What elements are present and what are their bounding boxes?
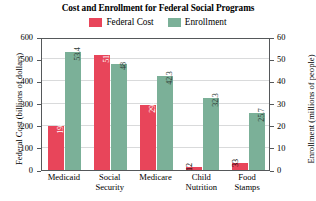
y-axis-right-tick-label: 20	[277, 122, 285, 131]
bar-enrollment[interactable]: 32.3	[203, 98, 219, 170]
bar-value-label: 294	[148, 101, 157, 113]
legend-swatch-federal-cost	[89, 18, 102, 27]
legend-item-federal-cost: Federal Cost	[89, 17, 153, 27]
y-axis-right-tick-label: 40	[277, 77, 285, 86]
bar-group: 51948	[94, 39, 127, 170]
x-axis-label: Food Stamps	[224, 173, 270, 192]
tick-mark-right	[270, 38, 274, 39]
legend-swatch-enrollment	[168, 18, 181, 27]
bar-group: 1232.3	[186, 39, 219, 170]
y-axis-right-tick-label: 60	[277, 33, 285, 42]
legend-item-enrollment: Enrollment	[168, 17, 227, 27]
tick-mark-right	[270, 60, 274, 61]
bar-value-label: 32.3	[211, 94, 220, 108]
bar-value-label: 33	[231, 159, 240, 167]
y-axis-right-title: Enrollment (millions of people)	[306, 34, 316, 184]
tick-mark-right	[270, 148, 274, 149]
y-axis-left-tick-label: 200	[20, 122, 33, 131]
bar-federal-cost[interactable]: 294	[140, 105, 156, 170]
y-axis-left-tick-label: 300	[20, 100, 33, 109]
bar-group: 19853.4	[48, 39, 81, 170]
y-axis-left-tick-label: 600	[20, 33, 33, 42]
x-axis-label: Social Security	[87, 173, 133, 192]
tick-mark-right	[270, 82, 274, 83]
bar-value-label: 198	[56, 122, 65, 134]
bar-group: 3325.7	[232, 39, 265, 170]
bar-federal-cost[interactable]: 12	[186, 167, 202, 170]
bar-value-label: 12	[185, 163, 194, 171]
bar-enrollment[interactable]: 42.3	[157, 76, 173, 170]
bar-federal-cost[interactable]: 198	[48, 126, 64, 170]
y-axis-left-tick-label: 0	[29, 166, 33, 175]
y-axis-left-tick-label: 100	[20, 144, 33, 153]
x-axis-label: Child Nutrition	[178, 173, 224, 192]
bar-value-label: 519	[102, 51, 111, 63]
tick-mark-right	[270, 126, 274, 127]
x-axis-category-labels: MedicaidSocial SecurityMedicareChild Nut…	[41, 173, 270, 201]
chart-legend: Federal Cost Enrollment	[0, 17, 316, 27]
bar-enrollment[interactable]: 53.4	[65, 52, 81, 170]
x-axis-label: Medicare	[133, 173, 179, 183]
chart-title: Cost and Enrollment for Federal Social P…	[0, 3, 316, 14]
bar-value-label: 48	[119, 62, 128, 70]
y-axis-right-tick-label: 10	[277, 144, 285, 153]
plot-area: 19853.45194829442.31232.33325.7	[41, 38, 270, 171]
bar-federal-cost[interactable]: 33	[232, 163, 248, 170]
chart-container: Cost and Enrollment for Federal Social P…	[0, 0, 316, 201]
legend-label-federal-cost: Federal Cost	[106, 17, 153, 27]
tick-mark-right	[270, 104, 274, 105]
legend-label-enrollment: Enrollment	[185, 17, 227, 27]
bar-enrollment[interactable]: 25.7	[249, 113, 265, 170]
y-axis-left-tick-label: 500	[20, 55, 33, 64]
bar-enrollment[interactable]: 48	[111, 64, 127, 170]
bar-group: 29442.3	[140, 39, 173, 170]
tick-mark-right	[270, 171, 274, 172]
y-axis-left-tick-label: 400	[20, 77, 33, 86]
bar-value-label: 42.3	[165, 71, 174, 85]
x-axis-label: Medicaid	[41, 173, 87, 183]
bar-value-label: 53.4	[73, 47, 82, 61]
y-axis-right-tick-label: 30	[277, 100, 285, 109]
y-axis-right-tick-label: 0	[277, 166, 281, 175]
bar-federal-cost[interactable]: 519	[94, 55, 110, 170]
bars-layer: 19853.45194829442.31232.33325.7	[42, 39, 269, 170]
y-axis-right-tick-label: 50	[277, 55, 285, 64]
bar-value-label: 25.7	[257, 108, 266, 122]
